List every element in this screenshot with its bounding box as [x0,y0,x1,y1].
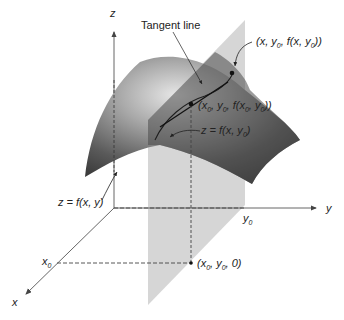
point-tangent [189,102,194,107]
surface-label: z = f(x, y) [57,196,104,208]
x0-label: x0 [41,255,52,269]
point-general-label: (x, y0, f(x, y0)) [256,35,322,49]
x-axis [26,208,114,294]
partial-derivative-diagram: z y x x0 y0 Tangent line z = f(x, y) z =… [0,0,344,320]
point-base-label: (x0, y0, 0) [197,257,242,271]
y0-label: y0 [242,212,253,226]
tangent-line-label: Tangent line [141,19,200,31]
x-axis-label: x [11,296,18,308]
surface-callout-arrow [102,172,117,200]
y-axis-label: y [325,202,333,214]
z-axis-label: z [109,7,116,19]
point-base [189,261,193,265]
point-general [230,71,235,76]
